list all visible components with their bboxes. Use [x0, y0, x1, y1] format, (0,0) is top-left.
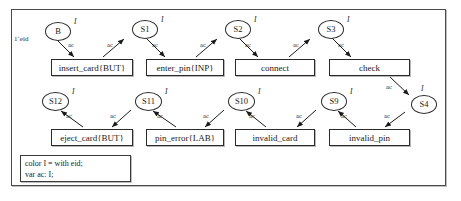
- arc-label-s9-to-invalid-card: ac: [296, 113, 302, 120]
- place-S4-label: S4: [420, 100, 429, 109]
- place-S3-label: S3: [327, 25, 336, 34]
- arc-label-insert-to-s1: ac: [107, 42, 113, 49]
- arc-label-eject-to-s12: ac: [66, 113, 72, 120]
- place-S3-colorset: I: [347, 16, 350, 24]
- transition-pin-error[interactable]: pin_error{LAB}: [146, 129, 224, 146]
- arc-label-s4-to-invalid-pin: ac: [384, 113, 390, 120]
- arc-label-s1-to-enter: ac: [152, 42, 158, 49]
- arc-label-s3-to-check: ac: [338, 42, 344, 49]
- place-S9-label: S9: [330, 97, 339, 106]
- place-S4[interactable]: S4: [411, 95, 437, 114]
- place-S12[interactable]: S12: [42, 92, 69, 111]
- place-S12-colorset: I: [72, 88, 75, 96]
- transition-enter-pin-label: enter_pin{INP}: [156, 63, 213, 73]
- arc-label-invalid-card-to-s10: ac: [249, 113, 255, 120]
- transition-eject-card[interactable]: eject_card{BUT}: [51, 129, 133, 146]
- place-S10-colorset: I: [258, 88, 261, 96]
- transition-eject-card-label: eject_card{BUT}: [60, 133, 124, 143]
- place-S11[interactable]: S11: [135, 92, 162, 111]
- place-B-colorset: I: [74, 18, 77, 26]
- place-S12-label: S12: [49, 97, 62, 106]
- place-S4-colorset: I: [421, 85, 424, 93]
- place-S2-colorset: I: [254, 16, 257, 24]
- place-S3[interactable]: S3: [318, 20, 344, 39]
- transition-connect-label: connect: [261, 63, 289, 73]
- place-S2[interactable]: S2: [225, 20, 251, 39]
- place-S10-label: S10: [235, 97, 248, 106]
- transition-check[interactable]: check: [329, 59, 410, 76]
- place-S1-label: S1: [141, 25, 150, 34]
- place-B[interactable]: B: [45, 22, 71, 41]
- place-S9-colorset: I: [350, 88, 353, 96]
- place-S1[interactable]: S1: [132, 20, 158, 39]
- arc-label-pin-error-to-s11: ac: [157, 113, 163, 120]
- place-S11-label: S11: [142, 97, 155, 106]
- arc-label-enter-to-s2: ac: [200, 42, 206, 49]
- arc-label-connect-to-s3: ac: [293, 42, 299, 49]
- place-S9[interactable]: S9: [321, 92, 347, 111]
- transition-connect[interactable]: connect: [235, 59, 315, 76]
- place-B-label: B: [55, 27, 61, 36]
- declaration-line-var: var ac: I;: [25, 169, 126, 180]
- transition-invalid-pin[interactable]: invalid_pin: [329, 129, 410, 146]
- transition-insert-card[interactable]: insert_card{BUT}: [51, 59, 133, 76]
- place-S1-colorset: I: [161, 16, 164, 24]
- arc-label-b-to-insert: ac: [68, 42, 74, 49]
- transition-insert-card-label: insert_card{BUT}: [59, 63, 126, 73]
- arc-label-s2-to-connect: ac: [245, 42, 251, 49]
- transition-check-label: check: [359, 63, 380, 73]
- initial-marking-label: 1`eid: [14, 36, 28, 43]
- transition-invalid-card[interactable]: invalid_card: [235, 129, 315, 146]
- declarations-box: color I = with eid; var ac: I;: [20, 155, 131, 182]
- arc-label-invalid-pin-to-s9: ac: [341, 113, 347, 120]
- arc-label-s10-to-pin-error: ac: [203, 113, 209, 120]
- transition-pin-error-label: pin_error{LAB}: [155, 133, 215, 143]
- place-S2-label: S2: [234, 25, 243, 34]
- place-S10[interactable]: S10: [228, 92, 255, 111]
- diagram-canvas: 1`eid B I S1 I S2 I S3 I S4 I S9 I S10 I…: [0, 0, 461, 201]
- transition-invalid-pin-label: invalid_pin: [349, 133, 390, 143]
- arc-label-check-to-s4: ac: [386, 84, 392, 91]
- transition-enter-pin[interactable]: enter_pin{INP}: [146, 59, 224, 76]
- declaration-line-color: color I = with eid;: [25, 158, 126, 169]
- arc-label-s11-to-eject: ac: [110, 113, 116, 120]
- place-S11-colorset: I: [165, 88, 168, 96]
- transition-invalid-card-label: invalid_card: [253, 133, 298, 143]
